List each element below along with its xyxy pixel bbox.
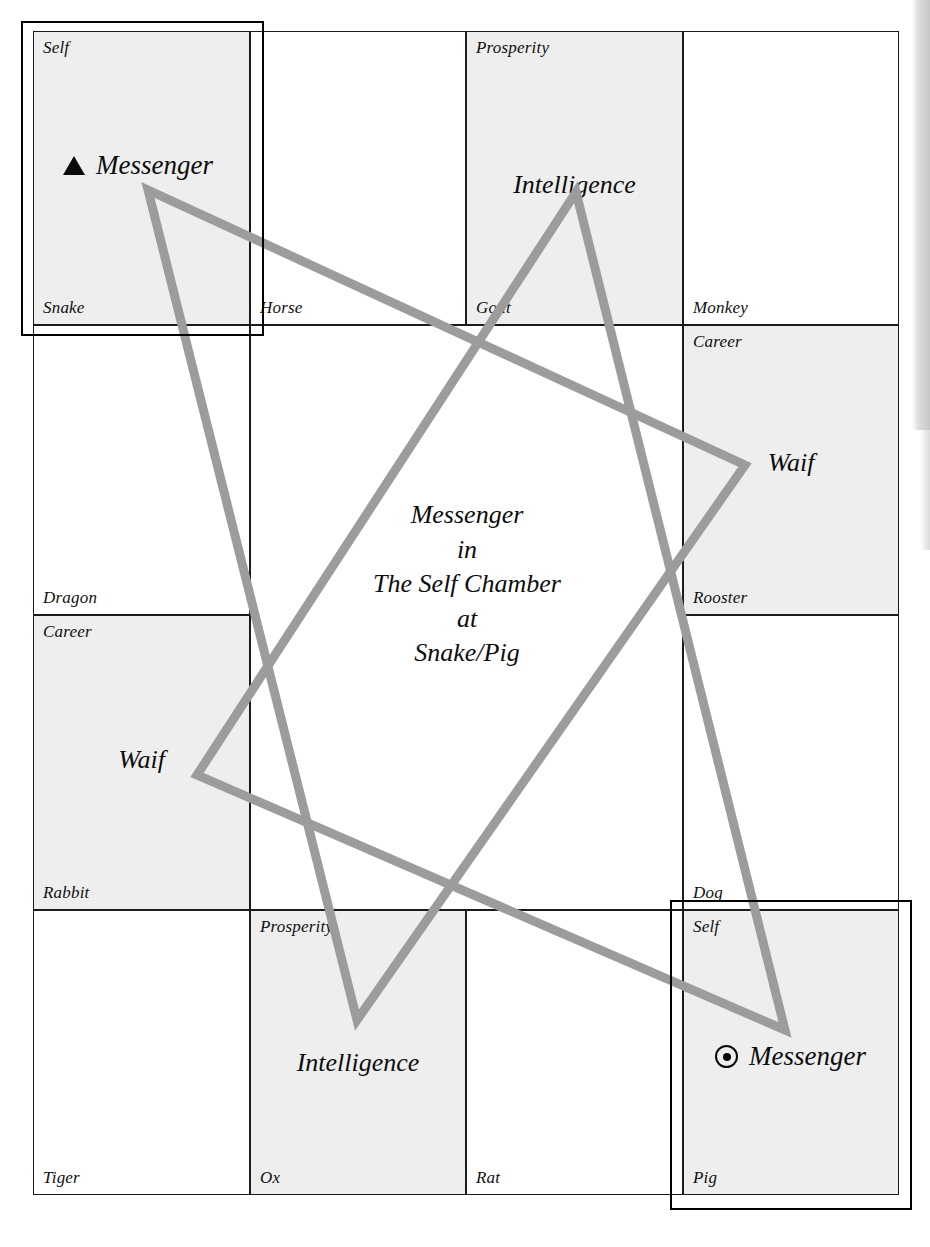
caption-line-3: The Self Chamber [252, 567, 682, 602]
caption-line-5: Snake/Pig [252, 636, 682, 671]
chart-diagram-root: Self Snake Horse Prosperity Goat Intelli… [0, 0, 930, 1247]
triangle-marker-icon [63, 156, 85, 175]
caption-line-2: in [252, 533, 682, 568]
center-caption: Messenger in The Self Chamber at Snake/P… [252, 498, 682, 671]
snake-messenger-label: Messenger [96, 150, 213, 181]
circle-dot-marker-icon [715, 1045, 738, 1068]
pig-messenger-marker-row: Messenger [715, 1041, 866, 1072]
pig-messenger-label: Messenger [749, 1041, 866, 1072]
caption-line-1: Messenger [252, 498, 682, 533]
snake-messenger-marker-row: Messenger [63, 150, 213, 181]
caption-line-4: at [252, 602, 682, 637]
